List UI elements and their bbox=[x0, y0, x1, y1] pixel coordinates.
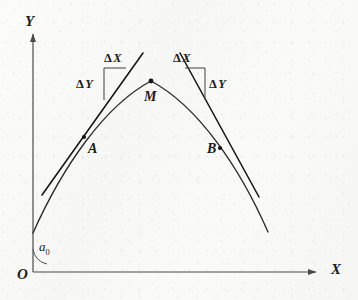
left-delta-x-label: ΔX bbox=[104, 52, 122, 65]
point-m-marker bbox=[149, 79, 154, 84]
x-axis-label: X bbox=[331, 262, 341, 277]
point-b-label: B bbox=[207, 142, 216, 156]
launch-angle-label: a0 bbox=[39, 240, 50, 256]
left-delta-y-label: ΔY bbox=[76, 78, 93, 91]
tangent-line-b bbox=[180, 53, 259, 197]
y-axis-label: Y bbox=[25, 14, 34, 29]
point-m-label: M bbox=[144, 90, 156, 104]
figure-canvas: Y X O a0 A M B ΔX ΔY ΔX ΔY bbox=[0, 0, 358, 300]
left-delta-y-symbol: Δ bbox=[76, 77, 84, 91]
diagram-svg bbox=[0, 0, 358, 300]
angle-subscript: 0 bbox=[46, 247, 50, 257]
right-delta-x-symbol: Δ bbox=[173, 51, 181, 65]
right-delta-y-variable: Y bbox=[217, 77, 226, 91]
right-delta-x-variable: X bbox=[181, 51, 191, 65]
left-delta-y-variable: Y bbox=[84, 77, 93, 91]
right-delta-y-label: ΔY bbox=[209, 78, 226, 91]
point-a-label: A bbox=[88, 142, 97, 156]
origin-label: O bbox=[17, 267, 28, 282]
tangent-line-a bbox=[42, 53, 143, 195]
point-a-marker bbox=[82, 135, 86, 139]
left-delta-x-variable: X bbox=[112, 51, 122, 65]
left-delta-x-symbol: Δ bbox=[104, 51, 112, 65]
right-delta-x-label: ΔX bbox=[173, 52, 191, 65]
point-b-marker bbox=[218, 146, 222, 150]
right-delta-y-symbol: Δ bbox=[209, 77, 217, 91]
